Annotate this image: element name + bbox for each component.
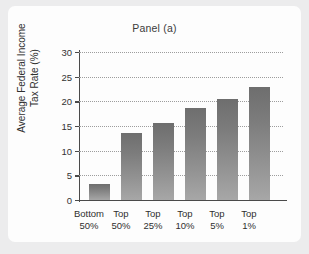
y-tick-mark bbox=[75, 200, 80, 201]
y-axis-label-line-1: Average Federal Income bbox=[16, 23, 27, 132]
x-tick-line-1: Top bbox=[241, 208, 256, 219]
x-tick-line-1: Top bbox=[113, 208, 128, 219]
x-tick-line-1: Top bbox=[209, 208, 224, 219]
gridline-25 bbox=[79, 77, 283, 78]
bar-bottom-50 bbox=[89, 184, 110, 200]
y-tick-label: 20 bbox=[61, 96, 72, 107]
y-tick-label: 15 bbox=[61, 121, 72, 132]
bar-top-25 bbox=[153, 123, 174, 200]
y-tick-label: 5 bbox=[67, 170, 72, 181]
x-tick-line-2: 1% bbox=[227, 220, 271, 232]
y-axis-label-line-2: Tax Rate (%) bbox=[28, 49, 39, 107]
chart-title: Panel (a) bbox=[8, 22, 301, 34]
x-tick-label-top-1: Top 1% bbox=[227, 208, 271, 232]
figure-card: Panel (a) Average Federal Income Tax Rat… bbox=[8, 6, 301, 242]
y-axis-label: Average Federal Income Tax Rate (%) bbox=[16, 6, 50, 151]
x-tick-line-1: Top bbox=[177, 208, 192, 219]
gridline-30 bbox=[79, 52, 283, 53]
y-tick-label: 30 bbox=[61, 47, 72, 58]
bar-top-1 bbox=[249, 87, 270, 200]
y-tick-label: 10 bbox=[61, 145, 72, 156]
x-tick-line-1: Top bbox=[145, 208, 160, 219]
y-tick-label: 0 bbox=[67, 195, 72, 206]
plot-area: 30 25 20 15 10 5 0 bbox=[79, 52, 283, 200]
x-axis-line bbox=[79, 200, 287, 201]
bar-top-5 bbox=[217, 99, 238, 200]
y-tick-label: 25 bbox=[61, 71, 72, 82]
bar-top-50 bbox=[121, 133, 142, 200]
bar-top-10 bbox=[185, 108, 206, 200]
